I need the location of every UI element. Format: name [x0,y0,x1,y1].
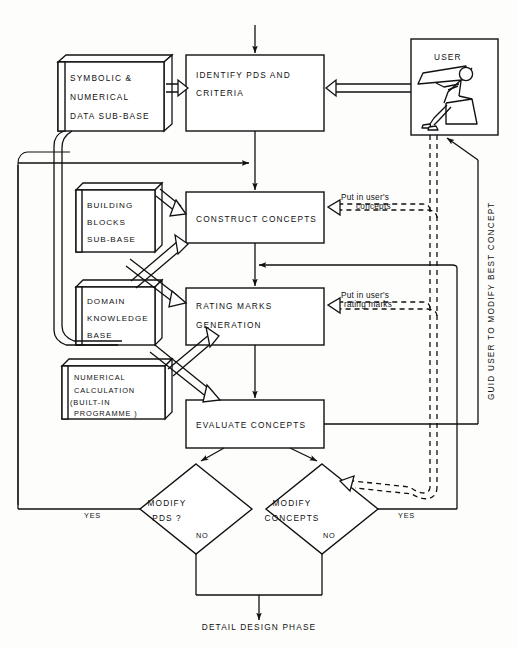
store-domain-line-1: KNOWLEDGE [87,314,149,323]
annotation-user-rating: Put in user's rating marks [341,291,392,309]
arrow-user-identify [326,80,411,96]
process-construct-line-0: CONSTRUCT CONCEPTS [196,214,317,224]
user-box[interactable]: USER [411,39,498,135]
store-symbolic-line-1: NUMERICAL [70,92,129,102]
store-building-line-2: SUB-BASE [87,235,136,244]
store-symbolic-numerical[interactable]: SYMBOLIC & NUMERICAL DATA SUB-BASE [58,55,172,131]
process-identify-pds[interactable]: IDENTIFY PDS AND CRITERIA [186,55,324,131]
annotation-concepts-line-1: concepts [356,202,391,211]
head-concepts [328,200,340,215]
decision-concepts-line-1: CONCEPTS [265,513,320,523]
label-concepts-no: NO [323,531,336,540]
store-symbolic-line-2: DATA SUB-BASE [70,111,150,121]
dashed-branch-modify-a [353,481,430,493]
store-domain-line-0: DOMAIN [87,297,125,306]
process-construct-concepts[interactable]: CONSTRUCT CONCEPTS [186,192,324,243]
process-rating-line-0: RATING MARKS [196,301,272,311]
edge-concepts-yes-turn [400,265,457,268]
user-box-label: USER [434,52,462,62]
annotation-concepts-line-0: Put in user's [341,193,389,202]
dashed-branch-concepts-b [340,210,437,218]
process-evaluate-concepts[interactable]: EVALUATE CONCEPTS [186,400,324,448]
edge-evaluate-concepts [290,448,317,461]
process-identify-line-0: IDENTIFY PDS AND [196,70,291,80]
dashed-branch-rating-b [340,309,437,316]
process-identify-line-1: CRITERIA [196,88,244,98]
dashed-branch-modify-b [355,487,437,499]
label-pds-yes: YES [84,511,101,520]
decision-pds-line-1: PDS ? [152,513,181,523]
store-domain-line-2: BASE [87,331,113,340]
head-rating [328,298,340,313]
label-concepts-yes: YES [398,511,415,520]
decision-modify-concepts[interactable]: MODIFY CONCEPTS [265,464,378,554]
flowchart-svg: SYMBOLIC & NUMERICAL DATA SUB-BASE BUILD… [0,0,518,649]
flowchart-canvas: SYMBOLIC & NUMERICAL DATA SUB-BASE BUILD… [0,0,518,649]
decision-modify-pds[interactable]: MODIFY PDS ? [140,464,252,554]
label-pds-no: NO [196,531,209,540]
store-symbolic-line-0: SYMBOLIC & [70,73,132,83]
store-numerical-line-1: CALCULATION [74,386,135,395]
store-domain-knowledge[interactable]: DOMAIN KNOWLEDGE BASE [76,280,162,345]
decision-pds-line-0: MODIFY [148,498,187,508]
dashed-arrowheads [328,200,354,491]
store-numerical-calculation[interactable]: NUMERICAL CALCULATION (BUILT-IN PROGRAMM… [62,359,172,419]
store-building-line-0: BUILDING [87,201,133,210]
store-numerical-line-3: PROGRAMME ) [74,409,138,418]
edge-evaluate-pds [201,448,224,461]
annotation-user-concepts: Put in user's concepts [341,193,391,211]
edge-guide-to-user [447,138,478,160]
process-evaluate-line-0: EVALUATE CONCEPTS [196,420,306,430]
decision-concepts-line-0: MODIFY [273,498,312,508]
dashed-user-bus [340,135,437,499]
vertical-guide-label: GUID USER TO MODIFY BEST CONCEPT [487,201,496,400]
annotation-rating-line-1: rating marks [344,300,392,309]
store-numerical-line-2: (BUILT-IN [70,398,110,407]
store-building-line-1: BLOCKS [87,218,126,227]
store-numerical-line-0: NUMERICAL [74,373,126,382]
annotation-rating-line-0: Put in user's [341,291,389,300]
store-building-blocks[interactable]: BUILDING BLOCKS SUB-BASE [76,183,162,252]
terminal-label: DETAIL DESIGN PHASE [202,622,317,632]
